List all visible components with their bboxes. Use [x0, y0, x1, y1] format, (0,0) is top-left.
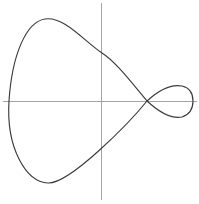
nodal-cubic-curve [9, 19, 193, 183]
plot-canvas [0, 0, 199, 204]
curve-group [9, 19, 193, 183]
axes-group [3, 3, 197, 200]
curve-plot-figure [0, 0, 199, 204]
